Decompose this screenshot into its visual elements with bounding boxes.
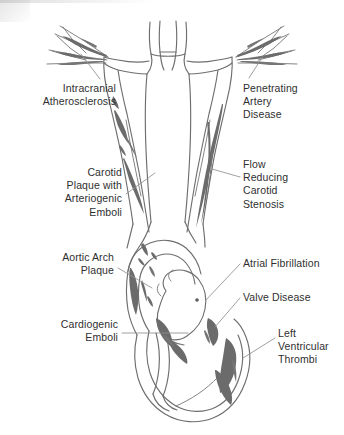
left-ventricle bbox=[135, 319, 250, 422]
circle-of-willis bbox=[104, 21, 232, 74]
internal-carotid-arteries bbox=[104, 57, 233, 232]
cardiogenic-emboli-markers bbox=[156, 318, 187, 364]
aortic-arch bbox=[127, 222, 206, 335]
label-cardiogenic-emboli: Cardiogenic Emboli bbox=[22, 318, 118, 344]
atrial-fibrillation-marker bbox=[195, 298, 199, 302]
label-aortic-arch-plaque: Aortic Arch Plaque bbox=[22, 251, 114, 277]
label-valve-disease: Valve Disease bbox=[243, 291, 343, 304]
leader-atrial-fib bbox=[206, 264, 240, 300]
label-left-ventricular-thrombi: Left Ventricular Thrombi bbox=[278, 327, 344, 367]
label-atrial-fibrillation: Atrial Fibrillation bbox=[243, 257, 343, 270]
embolic-sources-diagram: .vessel { fill: none; stroke: #6e6e6e; s… bbox=[0, 0, 344, 435]
label-penetrating-artery-disease: Penetrating Artery Disease bbox=[243, 82, 339, 122]
label-carotid-plaque-with-arteriogenic-emboli: Carotid Plaque with Arteriogenic Emboli bbox=[22, 166, 122, 219]
label-flow-reducing-carotid-stenosis: Flow Reducing Carotid Stenosis bbox=[243, 158, 339, 211]
label-intracranial-atherosclerosis: Intracranial Atherosclerosis bbox=[14, 82, 116, 108]
leader-flow-reducing bbox=[212, 169, 240, 177]
leader-valve bbox=[215, 298, 240, 327]
cerebral-arterial-branches-right bbox=[236, 26, 297, 65]
cerebral-arterial-branches-left bbox=[47, 26, 108, 65]
